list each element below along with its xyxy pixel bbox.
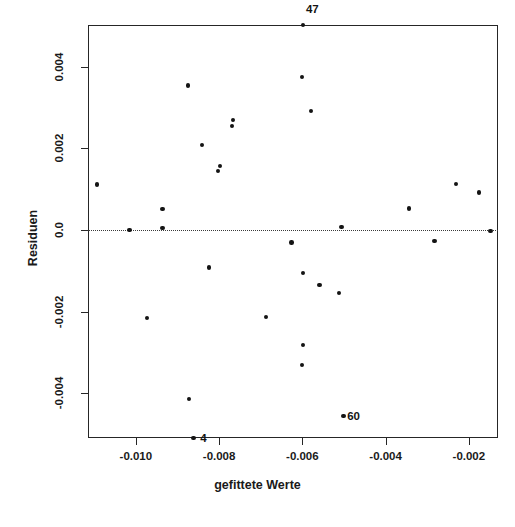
data-point	[191, 436, 195, 440]
point-index-label: 60	[347, 410, 359, 422]
data-point	[95, 182, 99, 186]
data-point	[145, 316, 149, 320]
x-axis-tick	[136, 438, 137, 445]
residual-scatter-plot: 47460 -0.010-0.008-0.006-0.004-0.0020.00…	[0, 0, 515, 527]
y-axis-tick	[81, 230, 88, 231]
y-axis-tick-label-text: 0.002	[53, 134, 65, 163]
y-axis-tick-label-text: -0.002	[53, 295, 65, 328]
data-point	[341, 414, 345, 418]
x-axis-tick-label: -0.002	[453, 450, 486, 462]
point-index-label: 47	[306, 3, 318, 15]
data-point	[289, 240, 293, 244]
data-point	[186, 83, 190, 87]
y-axis-tick-label: 0.002	[42, 126, 76, 170]
y-axis-tick	[81, 67, 88, 68]
x-axis-tick	[302, 438, 303, 445]
y-axis-tick	[81, 148, 88, 149]
data-point	[407, 206, 411, 210]
x-axis-tick	[386, 438, 387, 445]
data-point	[301, 271, 305, 275]
x-axis-tick-label: -0.006	[286, 450, 319, 462]
data-point	[127, 228, 131, 232]
y-axis-tick-label-text: -0.004	[53, 377, 65, 410]
point-index-label: 4	[200, 432, 206, 444]
y-axis-tick-label: -0.004	[42, 371, 76, 415]
x-axis-tick	[469, 438, 470, 445]
x-axis-tick-label: -0.004	[369, 450, 402, 462]
data-point	[432, 239, 436, 243]
x-axis-title: gefittete Werte	[0, 478, 515, 492]
zero-reference-line	[88, 230, 498, 231]
x-axis-tick-label: -0.010	[120, 450, 153, 462]
data-point	[160, 226, 164, 230]
y-axis-tick-label: -0.002	[42, 290, 76, 334]
y-axis-tick-label: 0.004	[42, 45, 76, 89]
x-axis-tick	[219, 438, 220, 445]
data-point	[317, 283, 321, 287]
x-axis-tick-label: -0.008	[203, 450, 236, 462]
y-axis-tick	[81, 393, 88, 394]
y-axis-tick-label-text: 0.004	[53, 52, 65, 81]
data-point	[207, 265, 211, 269]
y-axis-title-text: Residuen	[26, 210, 40, 266]
y-axis-tick	[81, 312, 88, 313]
data-point	[216, 169, 220, 173]
data-point	[477, 190, 481, 194]
y-axis-title: Residuen	[18, 188, 48, 288]
plot-panel-frame	[88, 25, 498, 438]
y-axis-tick-label-text: 0.0	[53, 222, 65, 238]
